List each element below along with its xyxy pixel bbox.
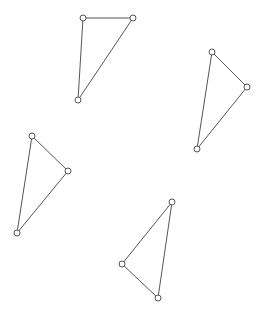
vertex-handle[interactable] (130, 15, 136, 21)
triangle-1 (75, 15, 136, 103)
vertex-handle[interactable] (75, 97, 81, 103)
triangle-edges (78, 18, 133, 100)
vertex-handle[interactable] (65, 168, 71, 174)
triangle-edges (197, 52, 247, 149)
diagram-canvas (0, 0, 261, 311)
triangle-edges (17, 136, 68, 233)
vertex-handle[interactable] (155, 295, 161, 301)
vertex-handle[interactable] (14, 230, 20, 236)
vertex-handle[interactable] (80, 15, 86, 21)
vertex-handle[interactable] (119, 261, 125, 267)
vertex-handle[interactable] (209, 49, 215, 55)
triangle-3 (14, 133, 71, 236)
triangle-4 (119, 199, 175, 301)
triangle-edges (122, 202, 172, 298)
vertex-handle[interactable] (29, 133, 35, 139)
triangle-2 (194, 49, 250, 152)
vertex-handle[interactable] (169, 199, 175, 205)
vertex-handle[interactable] (244, 84, 250, 90)
vertex-handle[interactable] (194, 146, 200, 152)
